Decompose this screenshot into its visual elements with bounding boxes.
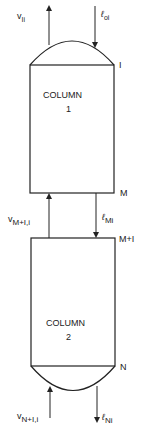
column-1: COLUMN 1 I M [30,41,128,198]
two-column-diagram: COLUMN 1 I M COLUMN 2 M+I N vIi ℓoi vM+I… [0,0,150,439]
column-1-top-cap [30,41,114,65]
column-2-title: COLUMN [46,318,85,328]
column-1-number: 1 [66,104,71,114]
top-liquid-label: ℓoi [100,9,110,21]
interstage-liquid-label: ℓMi [101,212,114,225]
column-2-body [31,238,115,366]
stage-label-top-1: I [119,60,122,70]
column-2-bottom-cap [31,366,115,391]
bottom-vapor-label: vN+I,i [17,411,38,424]
column-1-body [30,65,114,193]
stage-label-bottom-2: N [120,362,127,372]
column-2-number: 2 [66,332,71,342]
column-2: COLUMN 2 M+I N [31,234,134,391]
column-1-title: COLUMN [43,90,82,100]
stage-label-bottom-1: M [120,188,128,198]
top-vapor-label: vIi [17,11,25,23]
stage-label-top-2: M+I [119,234,134,244]
interstage-vapor-label: vM+I,i [8,214,30,227]
bottom-liquid-label: ℓNi [101,412,113,425]
